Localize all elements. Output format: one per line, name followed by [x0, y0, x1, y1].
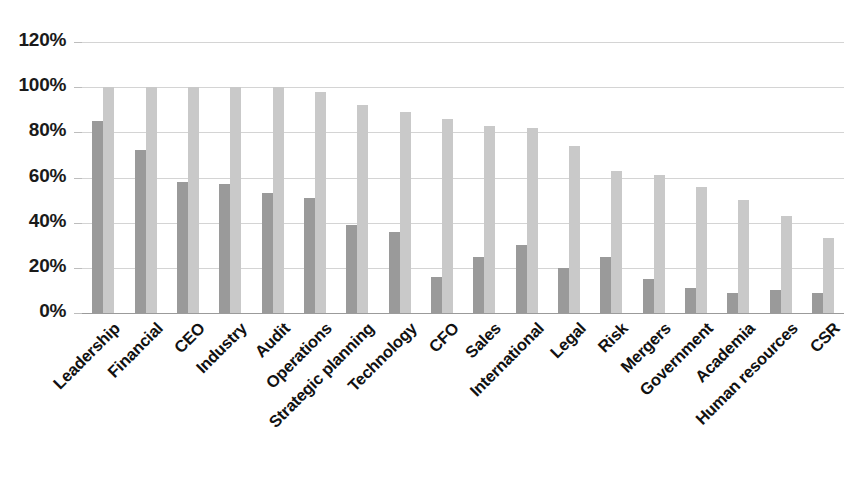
bar — [654, 175, 665, 313]
bar — [770, 290, 781, 313]
y-axis-tick-mark — [74, 268, 82, 269]
x-axis-tick-label: CFO — [166, 319, 462, 487]
bar — [611, 171, 622, 313]
bar-group — [516, 42, 538, 313]
bar — [643, 279, 654, 313]
bar — [400, 112, 411, 313]
bar — [484, 126, 495, 313]
bar-group — [177, 42, 199, 313]
y-axis-tick-mark — [74, 223, 82, 224]
bar — [357, 105, 368, 313]
bar-chart: 120%100%80%60%40%20%0% LeadershipFinanci… — [0, 0, 855, 487]
bar-group — [685, 42, 707, 313]
bar — [146, 87, 157, 313]
bar — [727, 293, 738, 313]
bar — [346, 225, 357, 313]
x-axis-tick-label: Operations — [39, 319, 335, 487]
bar — [823, 238, 834, 313]
x-axis-tick-label: Legal — [293, 319, 589, 487]
bar-group — [389, 42, 411, 313]
y-axis-tick-mark — [74, 313, 82, 314]
bar — [442, 119, 453, 313]
bar — [781, 216, 792, 313]
x-axis-tick-label: Human resources — [505, 319, 801, 487]
bar-group — [92, 42, 114, 313]
x-axis-baseline — [82, 313, 844, 314]
bar — [738, 200, 749, 313]
x-axis-tick-label: Leadership — [0, 319, 124, 487]
bar — [431, 277, 442, 313]
bar — [473, 257, 484, 313]
y-axis-tick-label: 40% — [0, 210, 66, 232]
bar — [188, 87, 199, 313]
bar-group — [431, 42, 453, 313]
bar-group — [558, 42, 580, 313]
bar — [558, 268, 569, 313]
bar — [812, 293, 823, 313]
bar — [92, 121, 103, 313]
bar-group — [219, 42, 241, 313]
bar — [103, 87, 114, 313]
x-axis-tick-label: Audit — [0, 319, 293, 487]
bar — [219, 184, 230, 313]
bar-group — [770, 42, 792, 313]
plot-area — [82, 42, 844, 313]
bar — [527, 128, 538, 313]
bar — [135, 150, 146, 313]
bar — [685, 288, 696, 313]
y-axis-tick-label: 0% — [0, 300, 66, 322]
bar — [273, 87, 284, 313]
x-axis-tick-label: Government — [420, 319, 716, 487]
bar-group — [135, 42, 157, 313]
x-axis-tick-label: Industry — [0, 319, 251, 487]
bar — [177, 182, 188, 313]
x-axis-tick-label: International — [251, 319, 547, 487]
bar — [389, 232, 400, 313]
bar-group — [346, 42, 368, 313]
bar — [315, 92, 326, 313]
x-axis-tick-label: Risk — [336, 319, 632, 487]
x-axis-tick-label: CEO — [0, 319, 209, 487]
bar — [516, 245, 527, 313]
bar-group — [812, 42, 834, 313]
bar-group — [473, 42, 495, 313]
x-axis-tick-label: Mergers — [378, 319, 674, 487]
y-axis-tick-label: 20% — [0, 255, 66, 277]
y-axis-tick-label: 100% — [0, 74, 66, 96]
bar — [600, 257, 611, 313]
bar — [304, 198, 315, 313]
y-axis-tick-label: 80% — [0, 119, 66, 141]
bar-group — [643, 42, 665, 313]
y-axis-tick-mark — [74, 42, 82, 43]
x-axis-tick-label: Sales — [209, 319, 505, 487]
y-axis-tick-label: 120% — [0, 29, 66, 51]
bar — [569, 146, 580, 313]
x-axis-tick-label: Academia — [463, 319, 759, 487]
bar-group — [600, 42, 622, 313]
bar-group — [727, 42, 749, 313]
bar — [262, 193, 273, 313]
x-axis-tick-label: Technology — [124, 319, 420, 487]
bar — [696, 187, 707, 313]
x-axis-tick-label: CSR — [547, 319, 843, 487]
bar-group — [262, 42, 284, 313]
y-axis-tick-mark — [74, 132, 82, 133]
x-axis-tick-label: Financial — [0, 319, 166, 487]
bar-group — [304, 42, 326, 313]
x-axis-tick-label: Strategic planning — [82, 319, 378, 487]
bar — [230, 87, 241, 313]
y-axis-tick-mark — [74, 178, 82, 179]
y-axis-tick-label: 60% — [0, 165, 66, 187]
y-axis-tick-mark — [74, 87, 82, 88]
